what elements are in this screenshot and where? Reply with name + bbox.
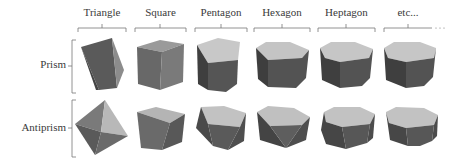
pentagonal-antiprism bbox=[196, 106, 246, 150]
row-brackets bbox=[68, 40, 76, 157]
column-brackets bbox=[78, 24, 432, 32]
heptagonal-prism bbox=[320, 42, 373, 88]
hexagonal-antiprism bbox=[257, 106, 310, 148]
hexagonal-prism bbox=[256, 42, 309, 88]
polygonal-prism-etc bbox=[384, 42, 436, 88]
octahedron-antiprism bbox=[75, 100, 128, 155]
pentagonal-prism bbox=[197, 38, 240, 92]
square-antiprism bbox=[137, 107, 185, 150]
ellipsis-dots bbox=[435, 27, 444, 28]
triangular-prism bbox=[81, 38, 124, 90]
polyhedra-figure bbox=[0, 0, 464, 166]
cube bbox=[137, 40, 184, 90]
heptagonal-antiprism bbox=[321, 107, 375, 149]
polygonal-antiprism-etc bbox=[386, 107, 438, 146]
